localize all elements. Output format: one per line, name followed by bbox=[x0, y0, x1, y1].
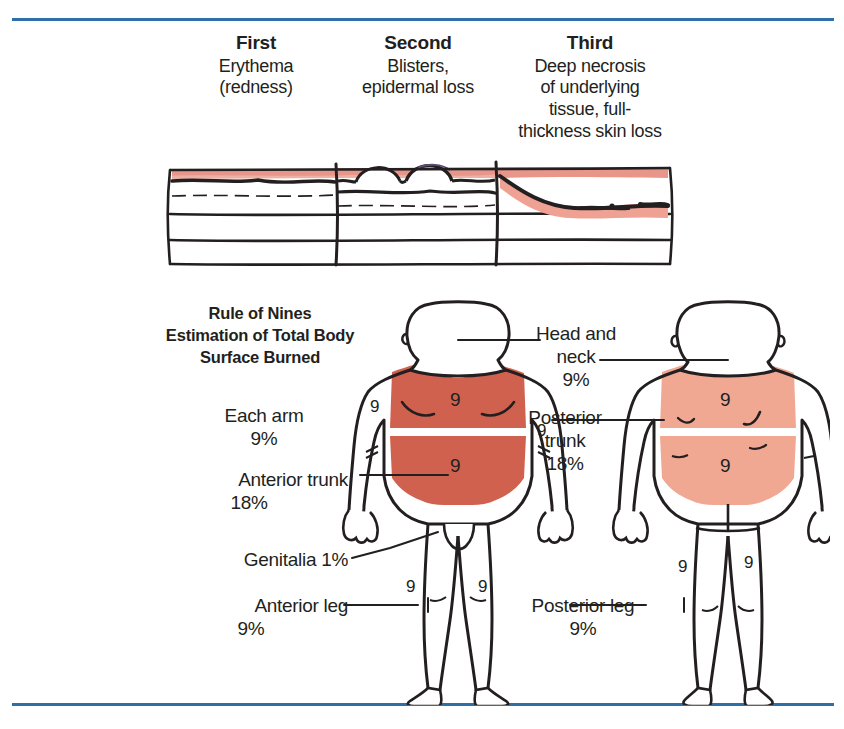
posterior-right-hand bbox=[808, 510, 830, 543]
label-anterior-leg: Anterior leg 9% bbox=[168, 594, 348, 640]
body-figures-diagram: 9 9 9 9 9 9 bbox=[330, 300, 830, 705]
anterior-right-leg bbox=[458, 524, 492, 694]
second-degree-region bbox=[338, 165, 495, 207]
burn-degree-second-title: Second bbox=[334, 32, 502, 55]
anterior-body-figure: 9 9 9 9 9 9 bbox=[343, 302, 573, 705]
anterior-right-foot bbox=[475, 688, 508, 705]
burn-degree-third-desc-line1: Deep necrosis bbox=[506, 56, 674, 78]
burn-degree-first: First Erythema (redness) bbox=[196, 32, 316, 99]
burn-degree-third: Third Deep necrosis of underlying tissue… bbox=[506, 32, 674, 142]
label-genitalia: Genitalia 1% bbox=[168, 548, 348, 571]
burn-degree-first-desc-line1: Erythema bbox=[196, 56, 316, 78]
burn-degree-third-desc-line4: thickness skin loss bbox=[506, 121, 674, 143]
label-each-arm-text: Each arm bbox=[180, 404, 348, 427]
cross-section-divider-2 bbox=[496, 162, 498, 265]
posterior-right-leg bbox=[728, 524, 762, 694]
anterior-head-outline bbox=[407, 302, 509, 376]
label-each-arm: Each arm 9% bbox=[180, 404, 348, 450]
burn-degree-first-title: First bbox=[196, 32, 316, 55]
third-degree-region bbox=[498, 168, 668, 219]
posterior-head-outline bbox=[677, 302, 779, 376]
label-anterior-leg-percent: 9% bbox=[168, 617, 348, 640]
anterior-nine-upper-trunk: 9 bbox=[450, 389, 461, 410]
burn-degree-third-desc-line2: of underlying bbox=[506, 77, 674, 99]
posterior-right-foot bbox=[745, 688, 773, 705]
burn-degree-second-desc-line2: epidermal loss bbox=[334, 77, 502, 99]
anterior-nine-lower-trunk: 9 bbox=[450, 455, 461, 476]
anterior-nine-left-leg: 9 bbox=[406, 577, 415, 596]
skin-cross-section-diagram bbox=[160, 148, 680, 280]
anterior-left-foot bbox=[408, 688, 441, 705]
burn-degree-second-desc-line1: Blisters, bbox=[334, 56, 502, 78]
label-anterior-trunk-text: Anterior trunk bbox=[158, 468, 348, 491]
posterior-left-hand bbox=[613, 510, 647, 543]
cross-section-divider-1 bbox=[336, 164, 338, 265]
label-anterior-trunk: Anterior trunk 18% bbox=[158, 468, 348, 514]
anterior-nine-right-arm: 9 bbox=[537, 421, 546, 440]
anterior-left-leg bbox=[424, 524, 458, 694]
label-genitalia-text: Genitalia 1% bbox=[168, 548, 348, 571]
burn-degree-second: Second Blisters, epidermal loss bbox=[334, 32, 502, 99]
anterior-left-hand bbox=[343, 510, 377, 543]
anterior-nine-right-leg: 9 bbox=[478, 577, 487, 596]
label-anterior-leg-text: Anterior leg bbox=[168, 594, 348, 617]
anterior-right-hand bbox=[538, 510, 572, 543]
posterior-left-foot bbox=[683, 688, 711, 705]
label-anterior-trunk-percent: 18% bbox=[158, 491, 348, 514]
burn-degree-third-desc-line3: tissue, full- bbox=[506, 99, 674, 121]
anterior-nine-left-arm: 9 bbox=[370, 397, 379, 416]
first-degree-region bbox=[172, 169, 335, 196]
posterior-nine-left-leg: 9 bbox=[678, 557, 687, 576]
posterior-left-leg bbox=[694, 524, 728, 694]
posterior-nine-upper-trunk: 9 bbox=[720, 389, 731, 410]
burn-degree-third-title: Third bbox=[506, 32, 674, 55]
posterior-nine-right-leg: 9 bbox=[744, 553, 753, 572]
posterior-nine-lower-trunk: 9 bbox=[720, 455, 731, 476]
burn-degree-first-desc-line2: (redness) bbox=[196, 77, 316, 99]
top-divider-rule bbox=[12, 18, 834, 21]
posterior-body-figure: 9 9 9 9 bbox=[613, 302, 830, 705]
cross-section-left-edge bbox=[168, 170, 170, 264]
label-each-arm-percent: 9% bbox=[180, 427, 348, 450]
